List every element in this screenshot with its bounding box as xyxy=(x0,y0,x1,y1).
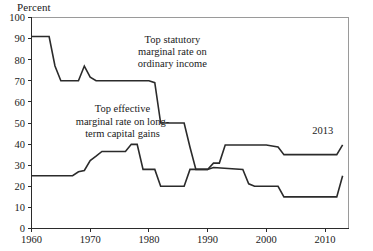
y-tick-label: 70 xyxy=(15,76,26,87)
y-tick-label: 20 xyxy=(15,181,26,192)
series-line xyxy=(32,144,343,196)
annotation-line: ordinary income xyxy=(138,58,207,69)
y-tick-label: 30 xyxy=(15,160,26,171)
y-tick-label: 40 xyxy=(15,139,26,150)
y-tick-label: 60 xyxy=(15,97,26,108)
annotation-line: Top effective xyxy=(95,103,151,114)
chart-annotations: Top statutorymarginal rate onordinary in… xyxy=(76,34,333,139)
year-marker-2013: 2013 xyxy=(312,125,333,136)
chart-figure: Percent 0102030405060708090100 196019701… xyxy=(0,0,373,251)
x-tick-label: 1970 xyxy=(80,234,101,245)
y-tick-label: 90 xyxy=(15,33,26,44)
y-axis-unit-label: Percent xyxy=(17,1,51,13)
y-axis-ticks: 0102030405060708090100 xyxy=(9,12,31,234)
y-tick-label: 80 xyxy=(15,55,26,66)
line-chart: 0102030405060708090100 19601970198019902… xyxy=(0,0,373,251)
y-tick-label: 100 xyxy=(9,12,25,23)
y-tick-label: 50 xyxy=(15,118,26,129)
capital-gains-label: Top effectivemarginal rate on long-term … xyxy=(76,103,170,138)
x-tick-label: 2000 xyxy=(256,234,277,245)
x-tick-label: 1980 xyxy=(138,234,159,245)
x-tick-label: 1990 xyxy=(197,234,218,245)
annotation-line: 2013 xyxy=(312,125,333,136)
x-tick-label: 2010 xyxy=(315,234,336,245)
annotation-line: marginal rate on long- xyxy=(76,116,170,127)
figure-footnote-cropped xyxy=(8,246,373,251)
annotation-line: term capital gains xyxy=(85,128,160,139)
statutory-label: Top statutorymarginal rate onordinary in… xyxy=(138,34,208,69)
y-tick-label: 10 xyxy=(15,202,26,213)
annotation-line: Top statutory xyxy=(145,34,201,45)
x-tick-label: 1960 xyxy=(21,234,42,245)
annotation-line: marginal rate on xyxy=(138,46,207,57)
y-tick-label: 0 xyxy=(20,223,25,234)
x-axis-ticks: 196019701980199020002010 xyxy=(21,229,336,246)
